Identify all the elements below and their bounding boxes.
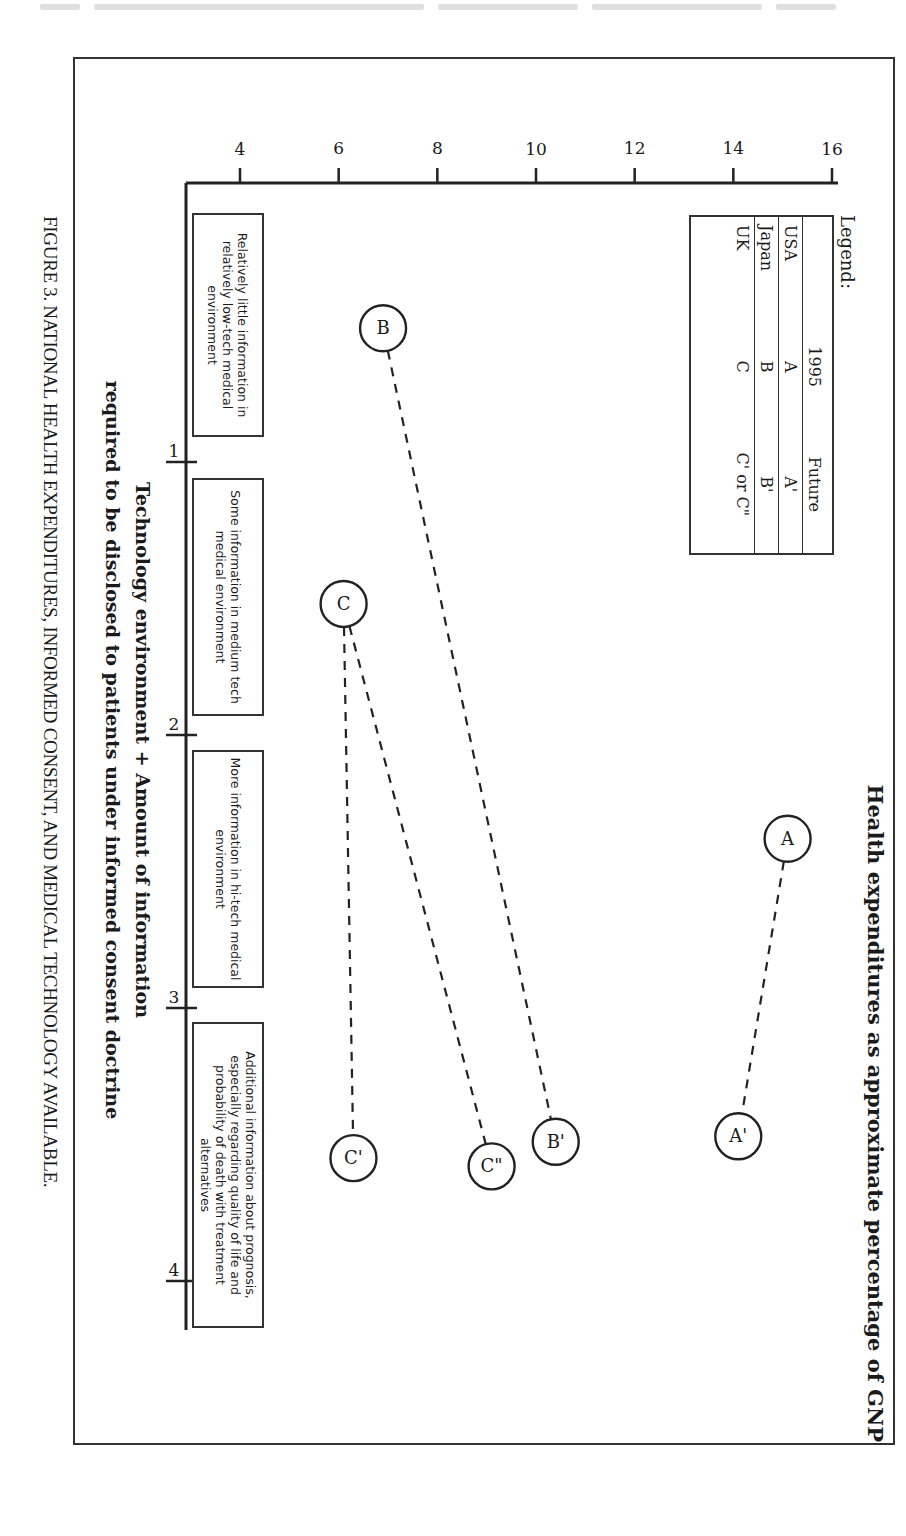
value-tick-label: 6	[333, 139, 344, 159]
legend-usa-1995: A	[779, 318, 803, 416]
data-point-A: A	[765, 816, 811, 862]
data-point-Cprime: C'	[330, 1135, 376, 1181]
x-axis-title: Technology environment + Amount of infor…	[98, 300, 158, 1200]
category-tick-label: 1	[169, 441, 180, 461]
data-point-label: B'	[547, 1131, 565, 1152]
category-tick-label: 4	[169, 1260, 180, 1280]
data-point-Bprime: B'	[533, 1119, 579, 1165]
legend-uk-1995: C	[731, 318, 755, 416]
figure-caption: FIGURE 3. NATIONAL HEALTH EXPENDITURES, …	[39, 216, 61, 1187]
data-point-label: A	[780, 828, 795, 849]
legend-country-japan: Japan	[755, 217, 779, 318]
value-axis-ticks: 46810121416	[235, 139, 843, 184]
legend-usa-future: A'	[779, 416, 803, 553]
data-point-label: C"	[481, 1155, 503, 1176]
value-tick-label: 12	[624, 139, 646, 159]
data-point-B: B	[360, 305, 406, 351]
value-tick-label: 14	[723, 139, 745, 159]
legend-col-future: Future	[803, 416, 827, 553]
legend-country-uk: UK	[731, 217, 755, 318]
legend-japan-future: B'	[755, 416, 779, 553]
legend-japan-1995: B	[755, 318, 779, 416]
dashed-connector	[349, 626, 485, 1144]
legend-uk-future: C' or C"	[731, 416, 755, 553]
legend-table: 1995 Future USA A A' Japan B B' UK C C' …	[731, 217, 826, 553]
data-point-label: C'	[344, 1147, 363, 1168]
category-box-4: Additional information about prognosis, …	[192, 1022, 264, 1328]
data-point-label: A'	[728, 1125, 747, 1146]
value-tick-label: 10	[525, 139, 547, 159]
data-point-Aprime: A'	[715, 1113, 761, 1159]
figure-canvas: Health expenditures as approximate perce…	[0, 0, 906, 1536]
category-box-1: Relatively little information in relativ…	[192, 213, 264, 437]
data-point-label: C	[337, 593, 351, 614]
legend-box: 1995 Future USA A A' Japan B B' UK C C' …	[689, 215, 834, 555]
value-tick-label: 4	[235, 139, 246, 159]
dashed-connector	[344, 627, 353, 1135]
x-axis-title-line2: required to be disclosed to patients und…	[98, 300, 128, 1200]
category-tick-label: 3	[169, 987, 180, 1007]
legend-title: Legend:	[837, 215, 858, 289]
value-tick-label: 16	[821, 139, 843, 159]
value-tick-label: 8	[432, 139, 443, 159]
x-axis-title-line1: Technology environment + Amount of infor…	[128, 300, 158, 1200]
data-point-C: C	[321, 581, 367, 627]
legend-country-usa: USA	[779, 217, 803, 318]
category-box-3: More information in hi-tech medical envi…	[192, 750, 264, 988]
legend-col-1995: 1995	[803, 318, 827, 416]
dashed-connector	[388, 351, 551, 1120]
data-point-Cdblprime: C"	[469, 1143, 515, 1189]
category-tick-label: 2	[169, 714, 180, 734]
dashed-connector	[742, 861, 784, 1113]
category-box-2: Some information in medium tech medical …	[192, 478, 264, 716]
data-point-label: B	[376, 317, 389, 338]
